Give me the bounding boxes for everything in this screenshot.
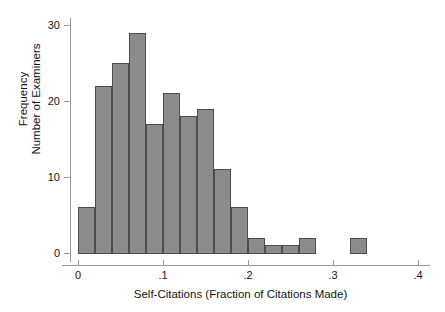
x-axis-tick-label: .3 bbox=[328, 270, 337, 281]
histogram-bar bbox=[299, 238, 316, 254]
y-axis-tick bbox=[64, 101, 70, 102]
x-axis-tick bbox=[333, 260, 334, 266]
y-axis-tick bbox=[64, 177, 70, 178]
x-axis-title-text: Self-Citations (Fraction of Citations Ma… bbox=[98, 288, 347, 301]
histogram-bar bbox=[350, 238, 367, 254]
x-axis-tick bbox=[163, 260, 164, 266]
x-axis-line bbox=[62, 265, 430, 266]
histogram-bar bbox=[112, 63, 129, 254]
x-axis-tick bbox=[78, 260, 79, 266]
histogram-bar bbox=[129, 33, 146, 254]
histogram-bar bbox=[282, 245, 299, 254]
histogram-bar bbox=[180, 116, 197, 254]
histogram-bar bbox=[163, 93, 180, 254]
y-axis-title-line-2: Number of Examiners bbox=[30, 9, 43, 189]
y-axis-tick bbox=[64, 25, 70, 26]
x-axis-tick bbox=[248, 260, 249, 266]
y-axis-title-line-1: Frequency bbox=[17, 9, 30, 189]
y-axis-line bbox=[70, 18, 71, 262]
histogram-bar bbox=[146, 124, 163, 254]
x-axis-tick-label: .1 bbox=[158, 270, 167, 281]
histogram-bar bbox=[265, 245, 282, 254]
x-axis-title: Self-Citations (Fraction of Citations Ma… bbox=[0, 288, 445, 301]
y-axis-tick-label: 0 bbox=[34, 248, 60, 259]
x-axis-tick bbox=[418, 260, 419, 266]
y-axis-title: Frequency Number of Examiners bbox=[17, 9, 43, 189]
x-axis-tick-label: 0 bbox=[75, 270, 81, 281]
histogram-chart: 0.1.2.3.4 0102030 Self-Citations (Fracti… bbox=[0, 0, 445, 312]
y-axis-tick bbox=[64, 253, 70, 254]
histogram-bar bbox=[248, 238, 265, 254]
x-axis-tick-label: .4 bbox=[413, 270, 422, 281]
histogram-bar bbox=[95, 86, 112, 254]
histogram-bar bbox=[78, 207, 95, 254]
histogram-bar bbox=[214, 169, 231, 254]
histogram-bar bbox=[197, 109, 214, 254]
x-axis-tick-label: .2 bbox=[243, 270, 252, 281]
histogram-bar bbox=[231, 207, 248, 254]
